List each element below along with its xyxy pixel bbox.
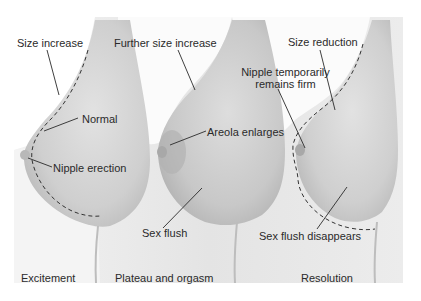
- label-areola-enlarges: Areola enlarges: [207, 126, 284, 138]
- label-nipple-temporarily: Nipple temporarily: [228, 66, 343, 78]
- label-size-increase: Size increase: [17, 37, 83, 49]
- breast-response-diagram: Size increase Normal Nipple erection Exc…: [0, 0, 421, 301]
- label-size-reduction: Size reduction: [288, 36, 358, 48]
- stage-label-resolution: Resolution: [301, 272, 353, 284]
- label-nipple-erection: Nipple erection: [53, 162, 126, 174]
- stage-label-excitement: Excitement: [21, 272, 75, 284]
- label-remains-firm: remains firm: [228, 78, 343, 90]
- label-normal: Normal: [82, 113, 117, 125]
- label-further-size-increase: Further size increase: [114, 37, 217, 49]
- nipple-2: [157, 146, 167, 158]
- label-sex-flush-disappears: Sex flush disappears: [259, 230, 361, 242]
- stage-label-plateau-and-orgasm: Plateau and orgasm: [115, 272, 213, 284]
- label-sex-flush: Sex flush: [142, 227, 187, 239]
